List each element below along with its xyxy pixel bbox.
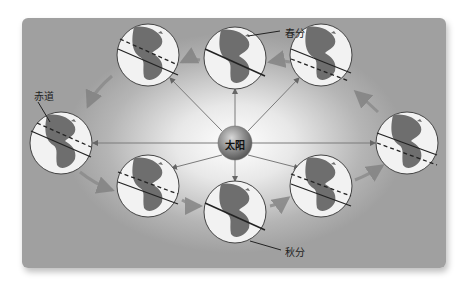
sun-label: 太阳 [220, 137, 250, 152]
autumnal-equinox-label: 秋分 [285, 244, 305, 259]
globe-bottom [204, 181, 266, 243]
equator-label: 赤道 [34, 88, 54, 103]
globe-top [204, 27, 266, 89]
vernal-equinox-label: 春分 [285, 25, 305, 40]
globe-left [30, 112, 92, 174]
globe-lower-right [290, 155, 352, 217]
globe-upper-left [117, 24, 179, 86]
globe-right [376, 112, 438, 174]
globe-lower-left [117, 155, 179, 217]
